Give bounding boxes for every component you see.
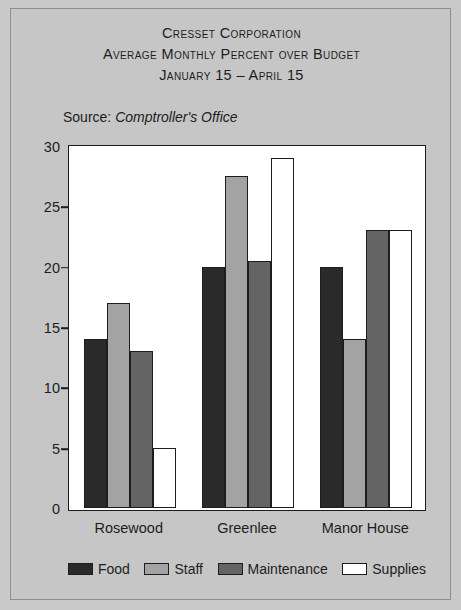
bars-layer — [68, 145, 426, 511]
y-axis-tick-label: 25 — [44, 199, 60, 215]
legend-swatch-food — [68, 563, 93, 575]
plot-wrapper: 051015202530 RosewoodGreenleeManor House — [68, 145, 426, 511]
x-axis-category-label: Rosewood — [94, 520, 163, 536]
bar-supplies-manor-house[interactable] — [389, 230, 412, 508]
source-label: Source: — [63, 109, 111, 125]
bar-food-manor-house[interactable] — [320, 267, 343, 509]
legend-label: Staff — [174, 561, 203, 577]
chart-legend: FoodStaffMaintenanceSupplies — [68, 561, 426, 577]
title-line-1: Cresset Corporation — [11, 23, 452, 44]
bar-supplies-greenlee[interactable] — [271, 158, 294, 509]
chart-figure: Cresset Corporation Average Monthly Perc… — [10, 8, 451, 600]
legend-item-maintenance[interactable]: Maintenance — [218, 561, 328, 577]
y-axis-tick-mark — [61, 388, 68, 390]
legend-swatch-staff — [144, 563, 169, 575]
bar-food-rosewood[interactable] — [84, 339, 107, 508]
legend-label: Supplies — [372, 561, 426, 577]
x-axis-category-label: Manor House — [322, 520, 409, 536]
legend-swatch-supplies — [342, 563, 367, 575]
y-axis-tick-label: 10 — [44, 380, 60, 396]
bar-group — [202, 148, 294, 509]
bar-staff-greenlee[interactable] — [225, 176, 248, 509]
y-axis-tick-mark — [61, 206, 68, 208]
y-axis-tick-label: 0 — [52, 501, 60, 517]
source-value: Comptroller's Office — [115, 109, 237, 125]
bar-maintenance-greenlee[interactable] — [248, 261, 271, 509]
y-axis-tick-label: 30 — [44, 139, 60, 155]
legend-swatch-maintenance — [218, 563, 243, 575]
bar-food-greenlee[interactable] — [202, 267, 225, 509]
title-block: Cresset Corporation Average Monthly Perc… — [11, 23, 452, 86]
y-axis-tick-label: 5 — [52, 441, 60, 457]
legend-item-supplies[interactable]: Supplies — [342, 561, 426, 577]
bar-staff-rosewood[interactable] — [107, 303, 130, 509]
bar-maintenance-rosewood[interactable] — [130, 351, 153, 508]
bar-supplies-rosewood[interactable] — [153, 448, 176, 508]
y-axis-tick-label: 20 — [44, 260, 60, 276]
bar-group — [84, 148, 176, 509]
bar-group — [320, 148, 412, 509]
bar-staff-manor-house[interactable] — [343, 339, 366, 508]
y-axis-tick-mark — [61, 448, 68, 450]
legend-item-food[interactable]: Food — [68, 561, 130, 577]
legend-label: Maintenance — [248, 561, 328, 577]
legend-item-staff[interactable]: Staff — [144, 561, 203, 577]
legend-label: Food — [98, 561, 130, 577]
x-axis-category-label: Greenlee — [217, 520, 277, 536]
y-axis-tick-mark — [61, 267, 68, 269]
title-line-3: January 15 – April 15 — [11, 65, 452, 86]
y-axis-tick-label: 15 — [44, 320, 60, 336]
source-note: Source: Comptroller's Office — [63, 109, 238, 125]
y-axis-tick-mark — [61, 327, 68, 329]
title-line-2: Average Monthly Percent over Budget — [11, 44, 452, 65]
bar-maintenance-manor-house[interactable] — [366, 230, 389, 508]
